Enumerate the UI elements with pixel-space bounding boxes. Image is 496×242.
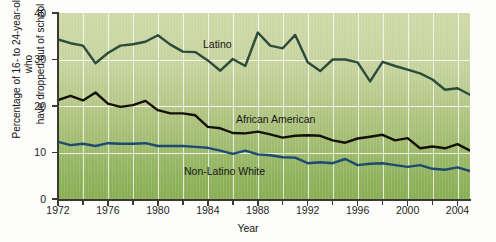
x-tick-mark bbox=[382, 200, 384, 205]
y-tick-label: 0 bbox=[0, 194, 46, 205]
y-tick-mark bbox=[52, 12, 58, 14]
x-tick-mark bbox=[82, 200, 84, 205]
y-tick-mark bbox=[52, 59, 58, 61]
x-tick-mark bbox=[332, 200, 334, 205]
series-label-non-latino-white: Non-Latino White bbox=[184, 165, 265, 177]
x-tick-label: 1972 bbox=[35, 205, 81, 216]
y-tick-mark bbox=[52, 105, 58, 107]
x-tick-mark bbox=[282, 200, 284, 205]
x-tick-label: 2000 bbox=[385, 205, 431, 216]
x-tick-label: 1988 bbox=[235, 205, 281, 216]
y-tick-mark bbox=[52, 152, 58, 154]
y-axis-title-line1: Percentage of 16- to 24-year-olds who bbox=[11, 0, 35, 149]
x-tick-mark bbox=[132, 200, 134, 205]
series-label-african-american: African American bbox=[236, 113, 315, 125]
x-axis-title: Year bbox=[0, 222, 496, 234]
x-tick-mark bbox=[232, 200, 234, 205]
series-label-latino: Latino bbox=[203, 38, 232, 50]
x-tick-label: 2004 bbox=[435, 205, 481, 216]
y-axis-title-line2: have dropped out of school bbox=[35, 0, 47, 149]
y-axis-title: Percentage of 16- to 24-year-olds who ha… bbox=[11, 0, 47, 149]
x-tick-mark bbox=[432, 200, 434, 205]
x-tick-label: 1992 bbox=[285, 205, 331, 216]
x-axis-line bbox=[57, 199, 471, 201]
x-tick-label: 1976 bbox=[85, 205, 131, 216]
x-tick-label: 1996 bbox=[335, 205, 381, 216]
x-tick-mark bbox=[182, 200, 184, 205]
series-line-latino bbox=[58, 33, 470, 95]
x-tick-label: 1980 bbox=[135, 205, 181, 216]
chart-container: 010203040 197219761980198419881992199620… bbox=[0, 0, 496, 242]
x-tick-label: 1984 bbox=[185, 205, 231, 216]
